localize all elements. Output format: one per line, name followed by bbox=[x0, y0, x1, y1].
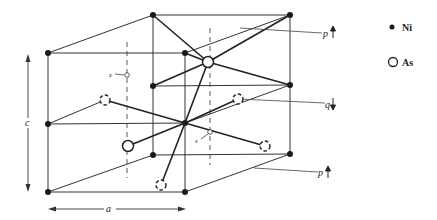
ni-atom bbox=[287, 151, 293, 157]
a-axis-label: a bbox=[106, 203, 111, 214]
ni-atom bbox=[182, 50, 188, 56]
legend-as-icon bbox=[389, 58, 398, 67]
layer-label-q: q bbox=[325, 99, 330, 110]
ni-atom bbox=[150, 83, 156, 89]
layer-label-p-bottom: p bbox=[317, 167, 323, 178]
ni-atom bbox=[287, 82, 293, 88]
as-atom bbox=[203, 57, 214, 68]
s-label-lower: s bbox=[195, 137, 198, 145]
s-label-upper: s bbox=[109, 71, 112, 79]
ni-atom bbox=[150, 12, 156, 18]
a-dimension bbox=[48, 207, 186, 212]
c-axis-label: c bbox=[25, 117, 30, 128]
layer-leaders bbox=[238, 28, 325, 172]
ni-atom bbox=[150, 152, 156, 158]
ni-atom bbox=[45, 189, 51, 195]
as-atom bbox=[100, 95, 110, 105]
ni-atom bbox=[182, 189, 188, 195]
nias-structure-diagram: p q p s s bbox=[0, 0, 437, 220]
legend: Ni As bbox=[389, 22, 414, 68]
legend-ni-label: Ni bbox=[402, 22, 412, 33]
s-site-upper: s bbox=[109, 71, 129, 79]
as-atom bbox=[156, 180, 166, 190]
legend-as-label: As bbox=[402, 57, 413, 68]
ni-atom bbox=[182, 120, 188, 126]
legend-ni-icon bbox=[390, 25, 395, 30]
ni-atom bbox=[45, 121, 51, 127]
ni-atoms bbox=[45, 12, 293, 195]
as-atom bbox=[123, 141, 134, 152]
as-atom bbox=[233, 94, 243, 104]
ni-atom bbox=[45, 50, 51, 56]
layer-label-p-top: p bbox=[322, 28, 328, 39]
as-atoms-solid bbox=[123, 57, 214, 152]
ni-atom bbox=[287, 12, 293, 18]
dashed-axes bbox=[127, 28, 210, 178]
as-atom bbox=[260, 141, 270, 151]
